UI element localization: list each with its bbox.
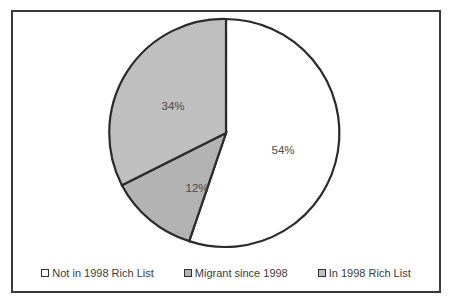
pie-label-54-percent: 54%: [271, 144, 294, 156]
legend: Not in 1998 Rich List Migrant since 1998…: [13, 267, 439, 279]
legend-swatch-icon: [41, 269, 49, 277]
legend-item-migrant-since-1998[interactable]: Migrant since 1998: [184, 267, 288, 279]
legend-swatch-icon: [184, 269, 192, 277]
legend-item-not-in-1998-rich-list[interactable]: Not in 1998 Rich List: [41, 267, 154, 279]
pie-label-12-percent: 12%: [185, 182, 208, 194]
pie-chart-area: 54% 12% 34%: [13, 14, 439, 252]
legend-item-in-1998-rich-list[interactable]: In 1998 Rich List: [318, 267, 411, 279]
pie-chart: 54% 12% 34%: [107, 14, 345, 252]
legend-item-label: Not in 1998 Rich List: [52, 267, 154, 279]
pie-label-34-percent: 34%: [161, 100, 184, 112]
legend-swatch-icon: [318, 269, 326, 277]
chart-frame: 54% 12% 34% Not in 1998 Rich List Migran…: [11, 10, 441, 293]
legend-item-label: Migrant since 1998: [195, 267, 288, 279]
legend-item-label: In 1998 Rich List: [329, 267, 411, 279]
